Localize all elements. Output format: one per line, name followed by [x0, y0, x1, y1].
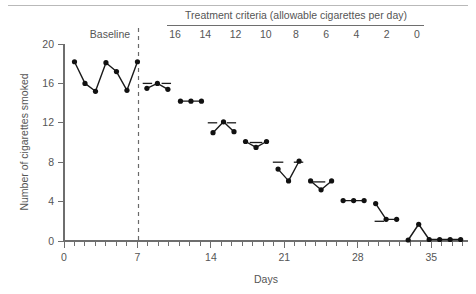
- data-point: [296, 159, 301, 164]
- x-tick-label: 0: [61, 251, 67, 263]
- header-title: Treatment criteria (allowable cigarettes…: [185, 9, 407, 21]
- y-tick-label: 12: [42, 116, 54, 128]
- data-point: [72, 59, 77, 64]
- x-axis-title: Days: [254, 273, 278, 285]
- header-criteria-value: 16: [169, 28, 181, 40]
- data-series-lines: [74, 62, 460, 240]
- header-criteria-value: 0: [414, 28, 420, 40]
- chart-figure: Treatment criteria (allowable cigarettes…: [0, 0, 476, 294]
- x-tick-label: 21: [279, 251, 291, 263]
- data-point: [135, 59, 140, 64]
- data-point: [188, 99, 193, 104]
- data-point: [275, 166, 280, 171]
- data-point: [373, 201, 378, 206]
- data-point: [416, 222, 421, 227]
- x-tick-label: 28: [352, 251, 364, 263]
- data-point: [286, 178, 291, 183]
- x-axis-minor-ticks: [64, 241, 463, 248]
- x-tick-label: 7: [135, 251, 141, 263]
- data-point: [351, 198, 356, 203]
- data-polyline: [408, 224, 460, 240]
- header-criteria-value: 8: [293, 28, 299, 40]
- data-point: [178, 99, 183, 104]
- x-tick-label: 14: [205, 251, 217, 263]
- y-tick-label: 0: [48, 235, 54, 247]
- data-point: [362, 198, 367, 203]
- data-point: [406, 237, 411, 242]
- data-polyline: [278, 161, 299, 181]
- data-point: [329, 178, 334, 183]
- y-axis-title: Number of cigarettes smoked: [18, 73, 30, 210]
- header-criteria-value: 6: [323, 28, 329, 40]
- data-point: [155, 81, 160, 86]
- top-divider-rule: [8, 5, 468, 6]
- data-point: [199, 99, 204, 104]
- data-point: [264, 139, 269, 144]
- data-series-points: [72, 59, 463, 242]
- header-criteria-value: 4: [354, 28, 360, 40]
- data-point: [318, 187, 323, 192]
- x-tick-label: 35: [425, 251, 437, 263]
- header-criteria-values: 1614121086420: [169, 28, 420, 40]
- header-criteria-value: 14: [199, 28, 211, 40]
- data-point: [253, 145, 258, 150]
- data-point: [103, 60, 108, 65]
- data-polyline: [74, 62, 137, 92]
- y-axis-tick-labels: 048121620: [42, 38, 54, 247]
- header-criteria-value: 10: [260, 28, 272, 40]
- data-point: [93, 89, 98, 94]
- data-point: [243, 139, 248, 144]
- treatment-criteria-header: Treatment criteria (allowable cigarettes…: [167, 9, 424, 40]
- y-axis-ticks: [58, 44, 64, 241]
- data-point: [144, 86, 149, 91]
- data-point: [437, 237, 442, 242]
- data-point: [165, 87, 170, 92]
- data-point: [394, 217, 399, 222]
- data-point: [384, 217, 389, 222]
- data-point: [458, 237, 463, 242]
- data-point: [231, 129, 236, 134]
- data-point: [114, 69, 119, 74]
- y-tick-label: 8: [48, 156, 54, 168]
- data-point: [308, 178, 313, 183]
- data-point: [427, 237, 432, 242]
- data-point: [210, 130, 215, 135]
- smoking-reduction-line-chart: Treatment criteria (allowable cigarettes…: [0, 0, 476, 294]
- data-point: [341, 198, 346, 203]
- y-tick-label: 16: [42, 77, 54, 89]
- header-criteria-value: 2: [384, 28, 390, 40]
- y-tick-label: 20: [42, 38, 54, 50]
- data-point: [82, 81, 87, 86]
- data-point: [124, 88, 129, 93]
- data-point: [448, 237, 453, 242]
- y-tick-label: 4: [48, 195, 54, 207]
- phase-label-baseline: Baseline: [90, 28, 130, 40]
- x-axis-tick-labels: 0714212835: [61, 251, 437, 263]
- header-criteria-value: 12: [230, 28, 242, 40]
- data-point: [221, 119, 226, 124]
